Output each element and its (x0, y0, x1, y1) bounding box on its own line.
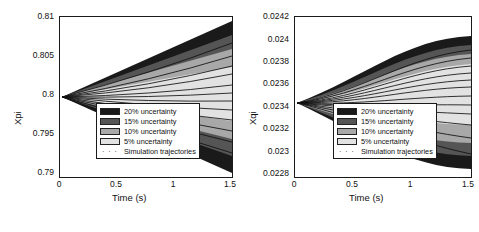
x-tick-label-left-2: 1 (163, 179, 183, 189)
legend-swatch-20-right (337, 108, 357, 115)
y-tick-label-right-5: 0.0232 (247, 123, 289, 133)
legend-swatch-15-left (100, 118, 120, 125)
y-tick-label-right-7: 0.0228 (247, 168, 289, 178)
legend-label-traj-right: Simulation trajectories (361, 147, 433, 156)
x-tick-label-left-0: 0 (49, 179, 69, 189)
legend-row-20-right: 20% uncertainty (337, 106, 433, 116)
x-tick-label-right-0: 0 (284, 179, 304, 189)
legend-left: 20% uncertainty 15% uncertainty 10% unce… (96, 103, 200, 159)
chart-panel-xpi: Xpi 0.81 0.805 0.8 0.795 0.79 (4, 0, 236, 232)
chart-panel-xqi: Xqi 0.0242 0.024 0.0238 0.0236 0.0234 0.… (243, 0, 475, 232)
legend-label-5-left: 5% uncertainty (124, 137, 172, 146)
y-tick-label-right-4: 0.0234 (247, 101, 289, 111)
x-axis-label-left: Time (s) (112, 192, 146, 203)
legend-label-15-left: 15% uncertainty (124, 117, 176, 126)
y-tick-label-left-2: 0.8 (12, 89, 54, 99)
legend-swatch-5-left (100, 138, 120, 145)
trajectory-marker-icon-right: · · · (337, 148, 357, 155)
legend-label-traj-left: Simulation trajectories (124, 147, 196, 156)
legend-row-20-left: 20% uncertainty (100, 106, 196, 116)
legend-row-15-left: 15% uncertainty (100, 116, 196, 126)
y-tick-label-left-0: 0.81 (12, 11, 54, 21)
legend-row-traj-left: · · · Simulation trajectories (100, 146, 196, 156)
x-tick-label-left-1: 0.5 (106, 179, 126, 189)
y-tick-label-right-0: 0.0242 (247, 11, 289, 21)
legend-label-15-right: 15% uncertainty (361, 117, 413, 126)
legend-row-5-right: 5% uncertainty (337, 136, 433, 146)
legend-label-10-right: 10% uncertainty (361, 127, 413, 136)
y-tick-label-right-2: 0.0238 (247, 56, 289, 66)
plot-area-left: 20% uncertainty 15% uncertainty 10% unce… (59, 16, 233, 178)
legend-right: 20% uncertainty 15% uncertainty 10% unce… (333, 103, 437, 159)
y-tick-label-left-1: 0.805 (12, 50, 54, 60)
legend-swatch-10-right (337, 128, 357, 135)
y-tick-label-right-6: 0.023 (247, 146, 289, 156)
legend-row-10-left: 10% uncertainty (100, 126, 196, 136)
legend-swatch-15-right (337, 118, 357, 125)
legend-label-5-right: 5% uncertainty (361, 137, 409, 146)
figure-container: Xpi 0.81 0.805 0.8 0.795 0.79 (0, 0, 479, 232)
legend-swatch-5-right (337, 138, 357, 145)
trajectory-marker-icon-left: · · · (100, 148, 120, 155)
y-tick-label-right-3: 0.0236 (247, 78, 289, 88)
legend-row-traj-right: · · · Simulation trajectories (337, 146, 433, 156)
y-tick-label-left-4: 0.79 (12, 167, 54, 177)
legend-label-20-left: 20% uncertainty (124, 107, 176, 116)
x-axis-label-right: Time (s) (349, 192, 383, 203)
legend-label-20-right: 20% uncertainty (361, 107, 413, 116)
x-tick-label-right-2: 1 (400, 179, 420, 189)
x-tick-label-right-3: 1.5 (458, 179, 478, 189)
legend-swatch-10-left (100, 128, 120, 135)
x-tick-label-left-3: 1.5 (220, 179, 240, 189)
y-axis-label-left: Xpi (12, 111, 23, 125)
legend-row-15-right: 15% uncertainty (337, 116, 433, 126)
y-tick-label-left-3: 0.795 (12, 128, 54, 138)
legend-swatch-20-left (100, 108, 120, 115)
legend-row-5-left: 5% uncertainty (100, 136, 196, 146)
legend-row-10-right: 10% uncertainty (337, 126, 433, 136)
plot-area-right: 20% uncertainty 15% uncertainty 10% unce… (294, 16, 472, 178)
legend-label-10-left: 10% uncertainty (124, 127, 176, 136)
y-tick-label-right-1: 0.024 (247, 34, 289, 44)
x-tick-label-right-1: 0.5 (342, 179, 362, 189)
